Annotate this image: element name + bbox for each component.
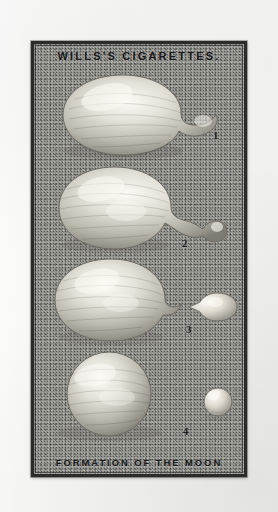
card-caption: FORMATION OF THE MOON xyxy=(31,457,247,468)
stage-4: 4 xyxy=(31,347,247,447)
stage-1: 1 xyxy=(31,65,247,165)
stage-2: 2 xyxy=(31,159,247,259)
scan-background: WILLS'S CIGARETTES. xyxy=(0,0,278,512)
cigarette-card: WILLS'S CIGARETTES. xyxy=(31,41,247,477)
brand-title: WILLS'S CIGARETTES. xyxy=(31,50,247,62)
stage-3-figure xyxy=(31,253,247,353)
stage-2-label: 2 xyxy=(182,237,188,249)
stage-4-figure xyxy=(31,347,247,447)
stage-1-label: 1 xyxy=(213,129,219,141)
stage-3-label: 3 xyxy=(186,323,192,335)
stage-1-figure xyxy=(31,65,247,165)
stage-3: 3 xyxy=(31,253,247,353)
stage-2-figure xyxy=(31,159,247,259)
stage-4-label: 4 xyxy=(183,425,189,437)
